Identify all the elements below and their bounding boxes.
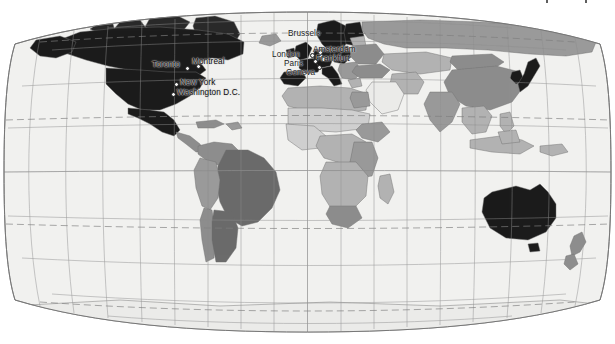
world-map-canvas	[0, 0, 615, 344]
region-ireland	[286, 48, 296, 58]
region-tasmania	[528, 243, 540, 252]
region-borneo	[498, 130, 520, 144]
cropped-text-artifact-1	[546, 0, 548, 3]
world-map-figure: Toronto Montreal New York Washington D.C…	[0, 0, 615, 344]
region-egypt	[350, 92, 370, 108]
cropped-text-artifact-2	[585, 0, 587, 3]
